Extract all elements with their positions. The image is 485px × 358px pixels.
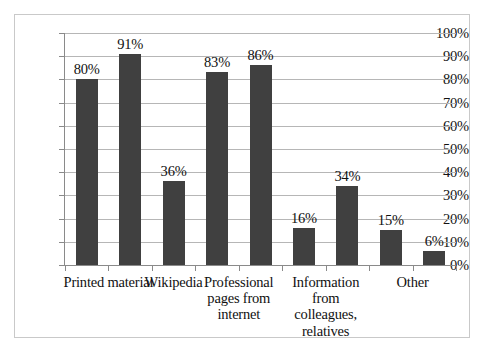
x-axis-tick	[65, 266, 66, 271]
bar-value-label: 80%	[57, 62, 117, 77]
x-axis-category-label: Informationfromcolleagues,relatives	[276, 274, 376, 339]
x-axis-tick	[369, 266, 370, 271]
bar-value-label: 16%	[274, 211, 334, 226]
x-axis-tick	[152, 266, 153, 271]
x-axis-category-label: Other	[363, 274, 463, 290]
bar-value-label: 6%	[404, 234, 464, 249]
bar-value-label: 91%	[100, 37, 160, 52]
x-axis-tick	[239, 266, 240, 271]
x-axis-tick	[282, 266, 283, 271]
bar	[206, 72, 228, 265]
x-axis-category-label-line: Other	[363, 274, 463, 290]
x-axis-line	[64, 265, 456, 266]
x-axis-category-label-line: Information	[276, 274, 376, 290]
y-axis-tick	[59, 126, 64, 127]
bar-value-label: 34%	[317, 169, 377, 184]
bar	[163, 181, 185, 265]
y-axis-tick	[59, 33, 64, 34]
x-axis-category-label-line: pages from	[189, 290, 289, 306]
x-axis-tick	[326, 266, 327, 271]
x-axis-tick	[413, 266, 414, 271]
x-axis-category-label-line: Professional	[189, 274, 289, 290]
x-axis-category-label-line: colleagues,	[276, 306, 376, 322]
y-axis-tick	[59, 219, 64, 220]
gridline	[65, 33, 456, 34]
y-axis-tick	[59, 195, 64, 196]
x-axis-category-label: Professionalpages frominternet	[189, 274, 289, 323]
bar-value-label: 36%	[144, 164, 204, 179]
x-axis-category-label-line: internet	[189, 306, 289, 322]
bar	[250, 65, 272, 265]
chart-frame: 0%10%20%30%40%50%60%70%80%90%100% 80%91%…	[14, 14, 470, 338]
y-axis-tick	[59, 149, 64, 150]
x-axis-category-label-line: relatives	[276, 323, 376, 339]
y-axis-tick	[59, 103, 64, 104]
y-axis-tick	[59, 79, 64, 80]
bar	[336, 186, 358, 265]
bar	[76, 79, 98, 265]
bar-value-label: 86%	[231, 48, 291, 63]
bar	[423, 251, 445, 265]
y-axis-tick	[59, 172, 64, 173]
bar	[119, 54, 141, 265]
bar	[380, 230, 402, 265]
bar	[293, 228, 315, 265]
x-axis-category-label-line: from	[276, 290, 376, 306]
x-axis-tick	[456, 266, 457, 271]
y-axis-tick	[59, 56, 64, 57]
bar-value-label: 15%	[361, 213, 421, 228]
plot-area	[65, 33, 456, 265]
y-axis-tick	[59, 242, 64, 243]
x-axis-tick	[108, 266, 109, 271]
x-axis-tick	[195, 266, 196, 271]
